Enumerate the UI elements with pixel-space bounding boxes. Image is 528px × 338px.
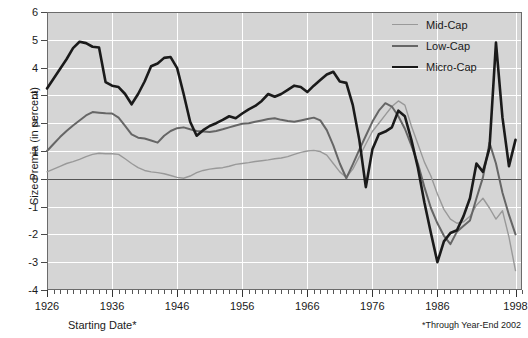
x-tick-minor-1969 bbox=[327, 290, 328, 294]
x-tick-minor-1930 bbox=[73, 290, 74, 294]
x-tick-minor-1928 bbox=[60, 290, 61, 294]
x-tick-minor-1995 bbox=[496, 290, 497, 294]
x-tick-minor-1987 bbox=[444, 290, 445, 294]
x-tick-minor-1938 bbox=[125, 290, 126, 294]
x-tick-minor-1989 bbox=[457, 290, 458, 294]
x-tick-minor-1933 bbox=[93, 290, 94, 294]
y-tick-label--4: -4 bbox=[4, 285, 38, 295]
y-tick-label-4: 4 bbox=[4, 63, 38, 73]
x-tick-minor-1974 bbox=[359, 290, 360, 294]
x-tick-minor-1961 bbox=[275, 290, 276, 294]
series-line-low-cap bbox=[47, 103, 515, 244]
x-tick-minor-1955 bbox=[236, 290, 237, 294]
x-tick-label-1966: 1966 bbox=[295, 300, 319, 312]
x-tick-minor-1943 bbox=[158, 290, 159, 294]
x-tick-minor-1941 bbox=[145, 290, 146, 294]
x-tick-minor-1944 bbox=[164, 290, 165, 294]
y-tick-label-3: 3 bbox=[4, 90, 38, 100]
x-tick-minor-1968 bbox=[320, 290, 321, 294]
x-tick-major-1986 bbox=[437, 290, 438, 297]
y-tick-label-0: 0 bbox=[4, 174, 38, 184]
x-tick-minor-1947 bbox=[184, 290, 185, 294]
x-tick-minor-1983 bbox=[418, 290, 419, 294]
x-tick-major-1976 bbox=[372, 290, 373, 297]
x-tick-label-1946: 1946 bbox=[165, 300, 189, 312]
x-tick-minor-1990 bbox=[463, 290, 464, 294]
x-tick-minor-1972 bbox=[346, 290, 347, 294]
legend: Mid-Cap Low-Cap Micro-Cap bbox=[392, 14, 477, 77]
legend-swatch-micro-cap bbox=[392, 66, 418, 68]
y-tick-label-6: 6 bbox=[4, 7, 38, 17]
x-tick-minor-1931 bbox=[80, 290, 81, 294]
x-tick-label-1986: 1986 bbox=[425, 300, 449, 312]
x-tick-major-1946 bbox=[177, 290, 178, 297]
x-tick-minor-1959 bbox=[262, 290, 263, 294]
x-tick-label-1976: 1976 bbox=[360, 300, 384, 312]
x-tick-minor-1970 bbox=[333, 290, 334, 294]
x-tick-minor-1984 bbox=[424, 290, 425, 294]
x-tick-minor-1949 bbox=[197, 290, 198, 294]
x-tick-minor-1978 bbox=[385, 290, 386, 294]
x-tick-minor-1994 bbox=[490, 290, 491, 294]
x-tick-major-1956 bbox=[242, 290, 243, 297]
x-tick-minor-1964 bbox=[294, 290, 295, 294]
x-tick-minor-1971 bbox=[340, 290, 341, 294]
footnote-source: *Through Year-End 2002 bbox=[422, 320, 521, 330]
x-tick-minor-1982 bbox=[411, 290, 412, 294]
x-tick-minor-1992 bbox=[477, 290, 478, 294]
x-tick-minor-1929 bbox=[67, 290, 68, 294]
legend-item-mid-cap[interactable]: Mid-Cap bbox=[392, 14, 477, 35]
x-tick-minor-1977 bbox=[379, 290, 380, 294]
legend-item-low-cap[interactable]: Low-Cap bbox=[392, 35, 477, 56]
x-tick-minor-1958 bbox=[255, 290, 256, 294]
x-tick-minor-1952 bbox=[216, 290, 217, 294]
x-tick-minor-1937 bbox=[119, 290, 120, 294]
x-tick-minor-1999 bbox=[522, 290, 523, 294]
x-tick-minor-1997 bbox=[509, 290, 510, 294]
x-tick-label-1936: 1936 bbox=[100, 300, 124, 312]
x-tick-minor-1957 bbox=[249, 290, 250, 294]
x-tick-label-1926: 1926 bbox=[35, 300, 59, 312]
x-tick-minor-1951 bbox=[210, 290, 211, 294]
x-tick-major-1966 bbox=[307, 290, 308, 297]
x-tick-minor-1939 bbox=[132, 290, 133, 294]
y-tick-label-2: 2 bbox=[4, 118, 38, 128]
y-tick-label-5: 5 bbox=[4, 35, 38, 45]
x-tick-minor-1950 bbox=[203, 290, 204, 294]
x-tick-minor-1954 bbox=[229, 290, 230, 294]
x-tick-minor-1981 bbox=[405, 290, 406, 294]
x-tick-minor-1960 bbox=[268, 290, 269, 294]
x-tick-minor-1962 bbox=[281, 290, 282, 294]
x-tick-minor-1945 bbox=[171, 290, 172, 294]
legend-item-micro-cap[interactable]: Micro-Cap bbox=[392, 56, 477, 77]
series-line-mid-cap bbox=[47, 101, 515, 271]
x-tick-minor-1975 bbox=[366, 290, 367, 294]
x-tick-major-1936 bbox=[112, 290, 113, 297]
x-tick-minor-1935 bbox=[106, 290, 107, 294]
legend-label-low-cap: Low-Cap bbox=[426, 40, 470, 52]
legend-label-mid-cap: Mid-Cap bbox=[426, 19, 468, 31]
x-tick-minor-1980 bbox=[398, 290, 399, 294]
x-tick-minor-1979 bbox=[392, 290, 393, 294]
x-tick-minor-1996 bbox=[503, 290, 504, 294]
x-tick-label-1998: 1998 bbox=[503, 300, 527, 312]
x-tick-minor-1948 bbox=[190, 290, 191, 294]
y-tick-label--1: -1 bbox=[4, 202, 38, 212]
y-tick-label--2: -2 bbox=[4, 229, 38, 239]
x-tick-minor-1942 bbox=[151, 290, 152, 294]
legend-swatch-low-cap bbox=[392, 45, 418, 47]
x-axis-title: Starting Date* bbox=[68, 319, 136, 331]
x-tick-label-1956: 1956 bbox=[230, 300, 254, 312]
x-tick-minor-1985 bbox=[431, 290, 432, 294]
x-tick-minor-1991 bbox=[470, 290, 471, 294]
x-tick-major-1998 bbox=[516, 290, 517, 297]
x-tick-minor-1963 bbox=[288, 290, 289, 294]
y-tick-label--3: -3 bbox=[4, 257, 38, 267]
x-tick-minor-1953 bbox=[223, 290, 224, 294]
x-tick-minor-1973 bbox=[353, 290, 354, 294]
x-tick-minor-1934 bbox=[99, 290, 100, 294]
y-tick-label-1: 1 bbox=[4, 146, 38, 156]
x-tick-minor-1965 bbox=[301, 290, 302, 294]
x-tick-minor-1967 bbox=[314, 290, 315, 294]
